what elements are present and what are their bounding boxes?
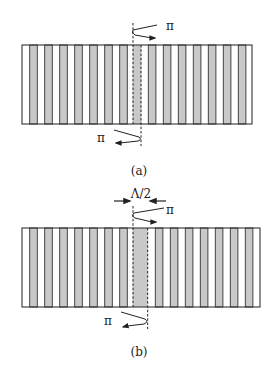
gray-stripe	[208, 45, 216, 124]
gray-stripe	[215, 228, 223, 307]
gray-stripe	[245, 228, 253, 307]
panel-b: Λ/2 π π (b)	[22, 187, 260, 359]
gray-stripe	[120, 228, 128, 307]
caption-a: (a)	[131, 164, 148, 178]
gray-stripe	[45, 45, 53, 124]
gray-stripe	[230, 228, 238, 307]
grating-stripes-a	[30, 45, 246, 124]
bottom-pi-label-b: π	[104, 314, 112, 328]
gray-stripe	[75, 228, 83, 307]
gray-stripe	[90, 228, 98, 307]
gray-stripe	[105, 228, 113, 307]
gray-stripe	[120, 45, 128, 124]
gray-stripe	[105, 45, 113, 124]
gray-stripe	[75, 45, 83, 124]
gray-stripe	[163, 45, 171, 124]
gray-stripe	[155, 228, 163, 307]
gray-stripe	[200, 228, 208, 307]
defect-stripe	[133, 45, 142, 124]
grating-stripes-b	[30, 228, 253, 307]
bottom-phase-arrow-icon	[114, 130, 140, 143]
gray-stripe	[170, 228, 178, 307]
top-pi-label-b: π	[166, 203, 174, 217]
panel-a: π π (a)	[22, 19, 252, 178]
top-phase-arrow-icon	[133, 208, 164, 222]
caption-b: (b)	[130, 345, 147, 359]
gray-stripe	[60, 45, 68, 124]
gray-stripe	[148, 45, 156, 124]
gray-stripe	[223, 45, 231, 124]
top-pi-label-a: π	[166, 19, 174, 33]
phase-grating-diagram: π π (a) Λ/2 π π (b)	[0, 0, 278, 379]
gray-stripe	[185, 228, 193, 307]
bottom-pi-label-a: π	[97, 131, 105, 145]
top-phase-arrow-icon	[132, 25, 157, 38]
gray-stripe	[30, 228, 38, 307]
defect-stripe	[133, 228, 148, 307]
gray-stripe	[90, 45, 98, 124]
half-period-label: Λ/2	[130, 187, 151, 201]
gray-stripe	[238, 45, 246, 124]
gray-stripe	[178, 45, 186, 124]
gray-stripe	[45, 228, 53, 307]
gray-stripe	[193, 45, 201, 124]
gray-stripe	[60, 228, 68, 307]
bottom-phase-arrow-icon	[121, 312, 147, 327]
gray-stripe	[30, 45, 38, 124]
